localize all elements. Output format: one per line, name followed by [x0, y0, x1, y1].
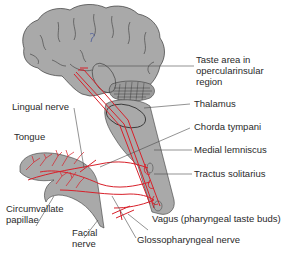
label-taste-area-line3: region [196, 76, 264, 87]
label-facial-line1: Facial [72, 227, 97, 238]
label-medial-lemniscus: Medial lemniscus [194, 144, 267, 155]
label-facial-nerve: Facial nerve [72, 227, 97, 249]
label-thalamus: Thalamus [194, 98, 236, 109]
label-circumvallate-papillae: Circumvallate papillae [6, 203, 64, 225]
label-tongue: Tongue [14, 131, 45, 142]
label-taste-area-line1: Taste area in [196, 54, 264, 65]
label-taste-area: Taste area in opercularinsular region [196, 54, 264, 87]
label-tractus-solitarius: Tractus solitarius [194, 168, 265, 179]
label-lingual-nerve: Lingual nerve [12, 101, 69, 112]
brainstem [105, 100, 175, 215]
label-circumvallate-line1: Circumvallate [6, 203, 64, 214]
label-glossopharyngeal-nerve: Glossopharyngeal nerve [137, 234, 240, 245]
label-vagus: Vagus (pharyngeal taste buds) [152, 213, 281, 224]
label-chorda-tympani: Chorda tympani [194, 121, 261, 132]
label-taste-area-line2: opercularinsular [196, 65, 264, 76]
label-circumvallate-line2: papillae [6, 214, 64, 225]
label-facial-line2: nerve [72, 238, 97, 249]
